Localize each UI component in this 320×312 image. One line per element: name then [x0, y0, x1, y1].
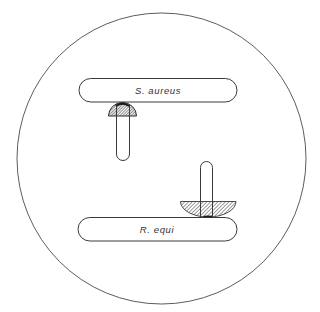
r-equi-label: R. equi [140, 224, 175, 235]
s-aureus-label: S. aureus [135, 85, 181, 96]
hemolysis-zone-bottom [181, 202, 237, 219]
culture-plate-diagram: S. aureus R. equi [0, 0, 320, 312]
s-aureus-streak: S. aureus [79, 79, 237, 103]
petri-plate [17, 13, 306, 304]
hemolysis-zone-top [109, 103, 137, 116]
r-equi-streak: R. equi [78, 218, 237, 242]
